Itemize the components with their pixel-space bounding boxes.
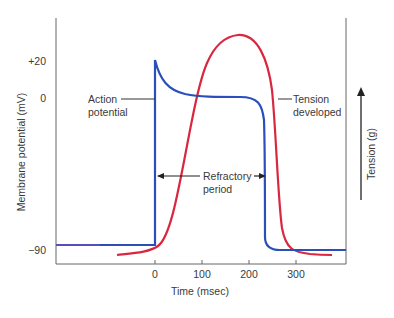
action-potential-label-line1: Action [88, 93, 117, 105]
refractory-period-label-line2: period [203, 183, 232, 195]
x-tick-100: 100 [187, 268, 217, 280]
chart: +20 0 −90 0 100 200 300 Time (msec) Memb… [0, 0, 394, 318]
x-tick-0: 0 [140, 268, 170, 280]
y-tick-plus20: +20 [16, 55, 46, 67]
x-ticks [155, 260, 296, 264]
y-axis-label-left: Membrane potential (mV) [15, 92, 27, 212]
y-tick-minus90: −90 [16, 244, 46, 256]
refractory-period-label-line1: Refractory [203, 170, 251, 182]
y-axis-label-right: Tension (g) [365, 124, 377, 184]
action-potential-label-line2: potential [88, 106, 128, 118]
tension-developed-label-line2: developed [293, 106, 341, 118]
x-tick-200: 200 [234, 268, 264, 280]
x-axis-label: Time (msec) [171, 285, 229, 297]
tension-up-arrow-icon [357, 87, 365, 200]
tension-developed-label-line1: Tension [293, 93, 329, 105]
x-tick-300: 300 [281, 268, 311, 280]
action-potential-curve [56, 60, 346, 250]
refractory-arrow-left [157, 173, 200, 179]
tension-developed-curve [117, 35, 332, 255]
